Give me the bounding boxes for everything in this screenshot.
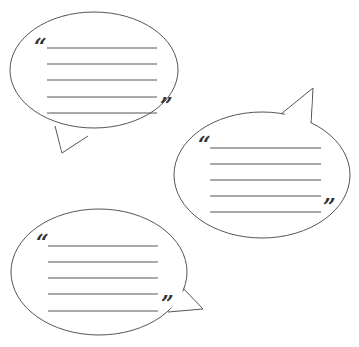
- speech-bubble-3: “ ”: [11, 209, 203, 335]
- open-quote-icon: “: [36, 229, 49, 255]
- close-quote-icon: ”: [161, 290, 174, 316]
- speech-bubbles-illustration: “ ” “ ” “ ”: [0, 0, 359, 347]
- open-quote-icon: “: [34, 33, 47, 59]
- open-quote-icon: “: [198, 131, 211, 157]
- close-quote-icon: ”: [160, 92, 173, 118]
- speech-bubble-1: “ ”: [10, 12, 178, 153]
- close-quote-icon: ”: [323, 193, 336, 219]
- speech-bubble-2: “ ”: [174, 88, 350, 238]
